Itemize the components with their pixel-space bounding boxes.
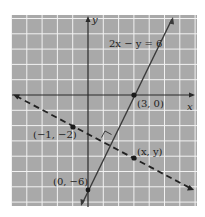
x-axis-label: x	[187, 101, 193, 112]
point-0-neg6	[86, 188, 91, 193]
label-point-neg1-neg2: (−1, −2)	[33, 129, 77, 140]
label-point-3-0: (3, 0)	[137, 98, 164, 109]
equation-label: 2x − y = 6	[109, 38, 163, 49]
label-point-0-neg6: (0, −6)	[53, 176, 88, 187]
label-point-x-y: (x, y)	[137, 146, 163, 157]
y-axis-label: y	[91, 14, 98, 25]
point-3-0	[131, 92, 136, 97]
coordinate-plane: 2x − y = 6 y x (3, 0) (−1, −2) (x, y) (0…	[0, 0, 205, 217]
point-x-y	[131, 155, 136, 160]
